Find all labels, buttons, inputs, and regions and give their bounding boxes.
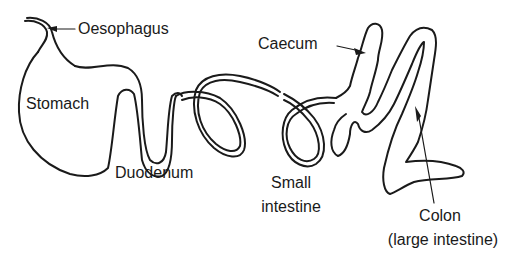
label-small-intestine-line1: Small	[262, 173, 320, 192]
small-intestine-shape	[176, 75, 336, 167]
stomach-shape	[19, 52, 176, 176]
label-oesophagus: Oesophagus	[78, 19, 169, 38]
digestive-tract-diagram: Oesophagus Stomach Duodenum Small intest…	[0, 0, 531, 266]
label-caecum: Caecum	[258, 34, 318, 53]
duodenum-shape	[142, 93, 182, 163]
colon-pointer-head	[415, 106, 421, 122]
label-stomach: Stomach	[26, 94, 89, 113]
label-colon-line1: Colon	[400, 206, 480, 225]
label-colon-line2: (large intestine)	[368, 230, 518, 249]
label-small-intestine-line2: intestine	[250, 197, 332, 216]
label-duodenum: Duodenum	[115, 163, 193, 182]
